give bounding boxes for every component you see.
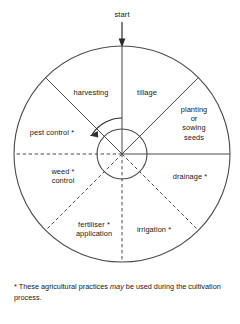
solid-dividers (46, 46, 230, 154)
cultivation-cycle-diagram: start harvesting tillage planting or sow… (0, 0, 240, 324)
footnote-text-before: These agricultural practices (17, 282, 110, 291)
wheel-graphic (0, 0, 240, 324)
divider-225deg (46, 154, 122, 230)
footnote: * These agricultural practices may be us… (14, 282, 228, 303)
divider-45deg (122, 78, 198, 154)
divider-135deg (46, 78, 122, 154)
dashed-dividers (14, 154, 198, 262)
divider-315deg (122, 154, 198, 230)
footnote-italic-word: may (110, 282, 124, 291)
start-arrow-icon (119, 22, 126, 48)
